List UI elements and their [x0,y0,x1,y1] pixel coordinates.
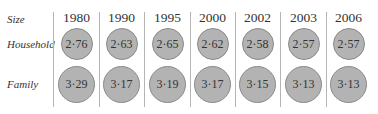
family-label: Family [7,78,38,90]
year-column-2000: 2000 2·62 3·17 [190,0,235,114]
household-circle: 2·76 [61,28,93,60]
family-circle: 3·29 [58,66,95,103]
year-header: 1980 [54,10,99,26]
family-circle: 3·13 [285,66,322,103]
household-circle: 2·63 [106,28,138,60]
year-header: 1990 [99,10,144,26]
family-circle: 3·19 [149,66,186,103]
year-column-2003: 2003 2·57 3·13 [281,0,326,114]
family-circle: 3·17 [194,66,231,103]
household-label: Household [7,38,55,50]
year-column-2002: 2002 2·58 3·15 [235,0,280,114]
year-header: 2006 [326,10,371,26]
year-column-2006: 2006 2·57 3·13 [326,0,371,114]
year-column-1990: 1990 2·63 3·17 [99,0,144,114]
family-circle: 3·13 [330,66,367,103]
year-header: 2002 [235,10,280,26]
household-circle: 2·62 [197,28,229,60]
size-label: Size [7,13,25,25]
household-circle: 2·57 [333,28,365,60]
family-circle: 3·15 [239,66,276,103]
household-circle: 2·65 [152,28,184,60]
year-header: 2000 [190,10,235,26]
year-column-1995: 1995 2·65 3·19 [145,0,190,114]
family-circle: 3·17 [103,66,140,103]
year-header: 1995 [145,10,190,26]
household-circle: 2·58 [242,28,274,60]
household-circle: 2·57 [288,28,320,60]
year-header: 2003 [281,10,326,26]
year-column-1980: 1980 2·76 3·29 [54,0,99,114]
